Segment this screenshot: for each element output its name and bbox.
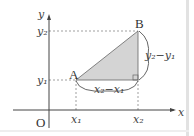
y-axis-arrow-icon — [47, 14, 51, 20]
x-axis-label: x — [178, 106, 185, 119]
coordinate-diagram: y x O y₂ y₁ x₁ x₂ A B x₂−x₁ y₂−y₁ — [0, 0, 194, 136]
point-b-label: B — [135, 16, 144, 31]
y2-label: y₂ — [36, 25, 48, 38]
right-triangle — [76, 31, 138, 80]
horizontal-difference-label: x₂−x₁ — [94, 83, 124, 96]
y1-label: y₁ — [36, 74, 48, 87]
x1-label: x₁ — [71, 113, 82, 126]
vertical-difference-label: y₂−y₁ — [144, 49, 175, 62]
y-axis-label: y — [37, 8, 45, 21]
point-a-label: A — [69, 67, 79, 82]
bottom-border — [0, 130, 189, 132]
x2-label: x₂ — [133, 113, 144, 126]
x-axis-arrow-icon — [170, 108, 176, 112]
origin-label: O — [36, 115, 45, 130]
right-border — [186, 0, 189, 136]
